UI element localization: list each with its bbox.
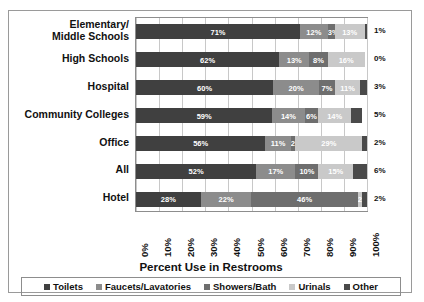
bar-segment: 22% (201, 192, 252, 207)
x-tick-label: 40% (231, 238, 242, 257)
bar-segment: 8% (309, 52, 327, 67)
bar-segment: 12% (300, 24, 328, 39)
bar-segment: 3% (328, 24, 335, 39)
legend-label: Urinals (298, 281, 330, 292)
bar-segment-label: 15% (318, 167, 353, 176)
x-tick-label: 90% (347, 238, 358, 257)
other-value-label: 5% (374, 107, 402, 122)
plot-area: 71%12%3%13%62%13%8%16%60%20%7%11%59%14%6… (135, 17, 368, 212)
x-tick-label: 70% (301, 238, 312, 257)
bar-row: 52%17%10%15% (136, 164, 367, 179)
other-value-label: 2% (374, 191, 402, 206)
bar-segment-label: 71% (136, 27, 300, 36)
other-value-label: 3% (374, 79, 402, 94)
chart-legend: ToiletsFaucets/LavatoriesShowers/BathUri… (21, 277, 401, 296)
bar-row: 28%22%46%2% (136, 192, 367, 207)
bar-segment: 7% (319, 80, 335, 95)
category-label: All (17, 164, 129, 176)
bar-segment-label: 59% (136, 111, 272, 120)
legend-label: Showers/Bath (213, 281, 276, 292)
other-value-labels: 1%0%3%5%2%6%2% (370, 17, 403, 212)
bar-segment-label: 29% (295, 139, 362, 148)
category-label: Office (17, 137, 129, 149)
bar-segment-label: 20% (273, 83, 319, 92)
category-label: Hotel (17, 192, 129, 204)
x-axis-title: Percent Use in Restrooms (9, 261, 413, 273)
legend-item[interactable]: Showers/Bath (204, 281, 276, 292)
bar-segment: 28% (136, 192, 201, 207)
bar-segment-label: 60% (136, 83, 273, 92)
bar-segment-label: 56% (136, 139, 265, 148)
bar-segment-label: 3% (328, 27, 335, 36)
bar-segment-label: 7% (319, 83, 335, 92)
bar-segment (360, 80, 367, 95)
bar-segment (351, 108, 363, 123)
legend-label: Faucets/Lavatories (105, 281, 191, 292)
legend-label: Other (353, 281, 378, 292)
bar-segment-label: 6% (305, 111, 319, 120)
bar-segment: 62% (136, 52, 279, 67)
legend-swatch-icon (204, 284, 210, 290)
legend-item[interactable]: Toilets (44, 281, 83, 292)
legend-item[interactable]: Urinals (289, 281, 330, 292)
category-label: High Schools (17, 53, 129, 65)
bar-segment (362, 192, 367, 207)
legend-swatch-icon (96, 284, 102, 290)
other-value-label: 6% (374, 163, 402, 178)
bar-segment (365, 24, 367, 39)
bar-segment-label: 17% (256, 167, 295, 176)
bar-segment: 13% (335, 24, 365, 39)
bar-segment: 59% (136, 108, 272, 123)
bar-segment-label: 8% (309, 55, 327, 64)
bar-segment-label: 12% (300, 27, 328, 36)
bar-segment: 14% (318, 108, 350, 123)
bar-segment: 20% (273, 80, 319, 95)
legend-label: Toilets (53, 281, 83, 292)
other-value-label: 2% (374, 135, 402, 150)
x-tick-label: 60% (278, 238, 289, 257)
other-value-label: 1% (374, 23, 402, 38)
x-tick-label: 50% (255, 238, 266, 257)
x-tick-label: 0% (139, 243, 150, 257)
category-label: Hospital (17, 81, 129, 93)
x-tick-label: 10% (162, 238, 173, 257)
bar-segment: 11% (335, 80, 360, 95)
bar-segment (353, 164, 367, 179)
bar-segment: 16% (328, 52, 365, 67)
bar-row: 56%11%2%29% (136, 136, 367, 151)
bar-row: 59%14%6%14% (136, 108, 367, 123)
bar-segment: 14% (272, 108, 304, 123)
bar-segment-label: 13% (279, 55, 309, 64)
chart-container: Elementary/ Middle SchoolsHigh SchoolsHo… (8, 10, 412, 293)
bar-segment-label: 14% (272, 111, 304, 120)
category-axis: Elementary/ Middle SchoolsHigh SchoolsHo… (17, 17, 133, 212)
x-tick-label: 20% (185, 238, 196, 257)
bar-segment: 10% (295, 164, 318, 179)
x-tick-label: 80% (324, 238, 335, 257)
bar-segment: 29% (295, 136, 362, 151)
plot-region: Elementary/ Middle SchoolsHigh SchoolsHo… (17, 17, 405, 222)
legend-item[interactable]: Faucets/Lavatories (96, 281, 191, 292)
bar-row: 60%20%7%11% (136, 80, 367, 95)
bar-segment: 15% (318, 164, 353, 179)
bar-segment: 56% (136, 136, 265, 151)
bar-segment: 71% (136, 24, 300, 39)
bar-segment-label: 22% (201, 195, 252, 204)
category-label: Community Colleges (17, 109, 129, 121)
legend-swatch-icon (344, 284, 350, 290)
legend-swatch-icon (289, 284, 295, 290)
bar-segment-label: 13% (335, 27, 365, 36)
legend-item[interactable]: Other (344, 281, 378, 292)
category-label: Elementary/ Middle Schools (17, 19, 129, 42)
bar-segment: 6% (305, 108, 319, 123)
x-axis-tick-labels: 0%10%20%30%40%50%60%70%80%90%100% (135, 223, 368, 259)
bar-row: 62%13%8%16% (136, 52, 367, 67)
gridline (367, 18, 368, 211)
x-tick-label: 100% (370, 233, 381, 257)
bar-segment-label: 62% (136, 55, 279, 64)
bar-segment-label: 11% (335, 83, 360, 92)
bar-segment-label: 28% (136, 195, 201, 204)
bar-segment (362, 136, 367, 151)
bar-row: 71%12%3%13% (136, 24, 367, 39)
bar-segment-label: 16% (328, 55, 365, 64)
